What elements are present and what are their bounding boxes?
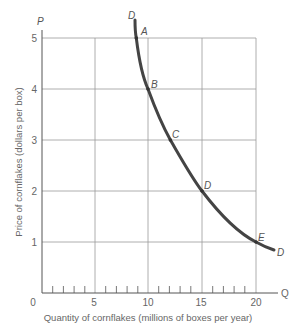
svg-text:5: 5 bbox=[31, 33, 37, 44]
svg-text:0: 0 bbox=[30, 297, 36, 308]
axes bbox=[42, 30, 278, 293]
curve-label-bottom: D bbox=[277, 247, 284, 258]
svg-text:2: 2 bbox=[31, 186, 37, 197]
svg-text:4: 4 bbox=[31, 84, 37, 95]
svg-text:20: 20 bbox=[250, 297, 262, 308]
point-b-label: B bbox=[151, 79, 158, 90]
point-d-label: D bbox=[204, 180, 211, 191]
point-a-label: A bbox=[140, 26, 148, 37]
gridlines bbox=[42, 38, 256, 293]
y-axis-title: Price of cornflakes (dollars per box) bbox=[13, 87, 24, 236]
x-axis-title: Quantity of cornflakes (millions of boxe… bbox=[44, 312, 253, 323]
y-axis-symbol: P bbox=[37, 16, 44, 27]
y-tick-labels: 5 4 3 2 1 bbox=[31, 33, 37, 248]
curve-label-top: D bbox=[128, 10, 135, 21]
point-b bbox=[146, 87, 150, 91]
svg-text:15: 15 bbox=[195, 297, 207, 308]
demand-curve bbox=[135, 20, 274, 250]
x-minor-ticks bbox=[53, 286, 245, 293]
svg-text:1: 1 bbox=[31, 237, 37, 248]
svg-text:10: 10 bbox=[142, 297, 154, 308]
point-c-label: C bbox=[172, 129, 180, 140]
point-a bbox=[135, 36, 139, 40]
x-tick-labels: 0 5 10 15 20 bbox=[30, 297, 262, 308]
svg-text:3: 3 bbox=[31, 135, 37, 146]
x-axis-symbol: Q bbox=[281, 288, 289, 299]
svg-text:5: 5 bbox=[91, 297, 97, 308]
point-e-label: E bbox=[258, 232, 265, 243]
demand-curve-chart: P Q 5 4 3 2 1 0 5 10 15 20 Quantity of c… bbox=[0, 0, 295, 330]
